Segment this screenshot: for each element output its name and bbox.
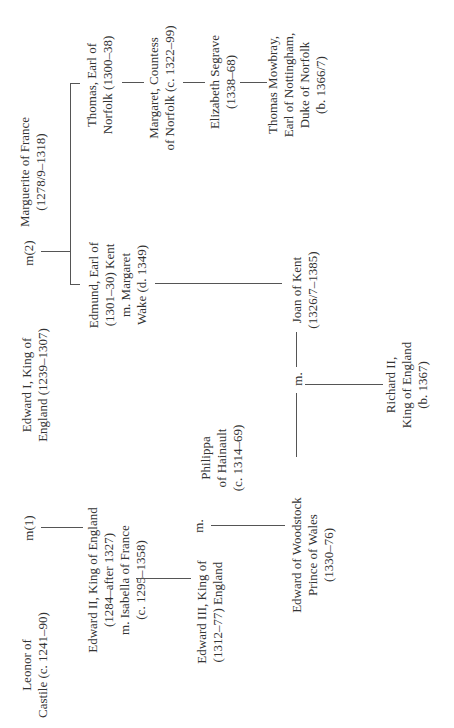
connector-m2-branch bbox=[70, 83, 71, 284]
person-joan-of-kent: Joan of Kent (1326/7–1385) bbox=[289, 251, 321, 328]
connector-edward-iii-woodstock bbox=[211, 525, 285, 526]
person-marguerite-of-france: Marguerite of France (1278/9–1318) bbox=[17, 117, 49, 227]
person-dates: Castile (c. 1241–90) bbox=[35, 612, 51, 718]
connector-m2 bbox=[41, 251, 70, 252]
connector-m-richard-ii bbox=[305, 384, 383, 385]
connector-thomas-margaret bbox=[122, 82, 144, 83]
person-name: Marguerite of France bbox=[17, 117, 33, 227]
marriage-label-m1: m(1) bbox=[21, 515, 37, 540]
connector-woodstock-m bbox=[296, 393, 297, 457]
marriage-label-edward-iii-philippa: m. bbox=[191, 519, 207, 532]
connector-thomas-norfolk bbox=[70, 83, 80, 84]
connector-edward-ii-edward-iii bbox=[136, 578, 191, 579]
connector-edmund-kent bbox=[70, 284, 80, 285]
person-dates: England (1239–1307) bbox=[35, 328, 51, 442]
person-thomas-mowbray: Thomas Mowbray, Earl of Nottingham, Duke… bbox=[265, 33, 329, 137]
person-edward-of-woodstock: Edward of Woodstock Prince of Wales (133… bbox=[289, 497, 337, 613]
connector-m1 bbox=[41, 527, 83, 528]
person-name: Leonor of bbox=[19, 612, 35, 718]
connector-m-joan bbox=[296, 332, 297, 367]
connector-edmund-joan bbox=[155, 283, 282, 284]
person-leonor-of-castile: Leonor of Castile (c. 1241–90) bbox=[19, 612, 51, 718]
person-elizabeth-segrave: Elizabeth Segrave (1338–68) bbox=[207, 35, 239, 129]
person-margaret-countess-of-norfolk: Margaret, Countess of Norfolk (c. 1322–9… bbox=[146, 26, 178, 151]
person-edward-i: Edward I, King of England (1239–1307) bbox=[19, 328, 51, 442]
person-dates: (1278/9–1318) bbox=[33, 117, 49, 227]
person-philippa-of-hainault: Philippa of Hainault (c. 1314–69) bbox=[198, 425, 246, 491]
connector-elizabeth-mowbray bbox=[240, 82, 267, 83]
person-edward-iii: Edward III, King of (1312–77) England bbox=[194, 560, 226, 663]
connector-margaret-elizabeth bbox=[183, 82, 205, 83]
person-richard-ii: Richard II, King of England (b. 1367) bbox=[383, 342, 431, 429]
marriage-label-woodstock-joan: m. bbox=[290, 372, 306, 385]
person-edmund-earl-of-kent: Edmund, Earl of (1301–30) Kent m. Margar… bbox=[86, 242, 150, 328]
marriage-label-m2: m(2) bbox=[21, 240, 37, 265]
person-edward-ii: Edward II, King of England (1284–after 1… bbox=[85, 507, 149, 653]
person-name: Edward I, King of bbox=[19, 328, 35, 442]
person-thomas-earl-of-norfolk: Thomas, Earl of Norfolk (1300–38) bbox=[84, 36, 116, 135]
